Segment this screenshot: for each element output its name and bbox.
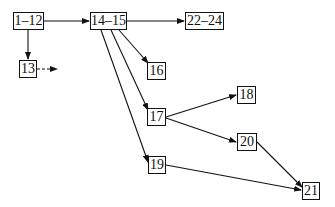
node-17: 17 <box>147 108 166 126</box>
node-13: 13 <box>19 60 37 78</box>
node-20: 20 <box>237 133 257 151</box>
edge-17-to-20 <box>166 118 236 142</box>
node-16: 16 <box>147 62 166 80</box>
edge-17-to-18 <box>166 95 236 117</box>
edge-19-to-21 <box>166 165 301 190</box>
node-1-12: 1–12 <box>13 12 44 30</box>
node-21: 21 <box>302 182 320 200</box>
edge-20-to-21 <box>257 142 302 187</box>
node-19: 19 <box>148 156 166 174</box>
edges-layer <box>0 0 335 207</box>
node-22-24: 22–24 <box>185 12 224 30</box>
node-18: 18 <box>237 86 256 104</box>
node-14-15: 14–15 <box>90 12 127 30</box>
edge-14-15-to-16 <box>119 30 148 63</box>
